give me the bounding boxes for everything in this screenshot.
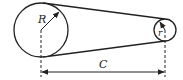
label-r: r [158,28,163,38]
label-R: R [37,13,46,26]
label-C: C [99,58,108,71]
belt-drive-diagram: R r C [0,0,183,80]
